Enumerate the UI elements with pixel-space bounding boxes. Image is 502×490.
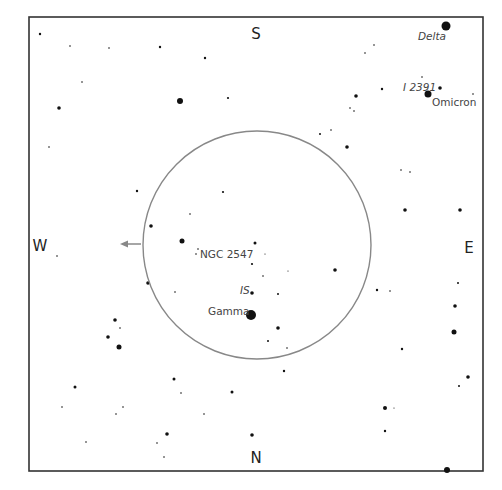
star bbox=[177, 98, 183, 104]
star bbox=[180, 392, 182, 394]
star bbox=[231, 391, 234, 394]
direction-south: S bbox=[251, 25, 261, 43]
star bbox=[174, 291, 176, 293]
star bbox=[349, 107, 351, 109]
star bbox=[106, 335, 110, 339]
star bbox=[85, 441, 87, 443]
star bbox=[264, 253, 265, 254]
star bbox=[56, 255, 58, 257]
star bbox=[354, 94, 358, 98]
star bbox=[383, 406, 387, 410]
star bbox=[48, 146, 50, 148]
star bbox=[61, 406, 63, 408]
object-label: Omicron bbox=[432, 96, 476, 108]
star bbox=[453, 304, 457, 308]
object-label: Delta bbox=[418, 30, 446, 42]
star bbox=[376, 289, 378, 291]
star bbox=[113, 318, 117, 322]
star bbox=[409, 171, 411, 173]
star bbox=[319, 133, 321, 135]
object-label: Gamma bbox=[208, 305, 249, 317]
star bbox=[197, 248, 199, 250]
star bbox=[117, 345, 122, 350]
star bbox=[330, 129, 332, 131]
star bbox=[277, 293, 279, 295]
star bbox=[136, 190, 138, 192]
star bbox=[57, 106, 61, 110]
star bbox=[267, 340, 269, 342]
star bbox=[159, 46, 161, 48]
star bbox=[189, 213, 191, 215]
star bbox=[149, 224, 153, 228]
star bbox=[384, 430, 386, 432]
star bbox=[69, 45, 71, 47]
star bbox=[115, 413, 117, 415]
star bbox=[345, 145, 349, 149]
star bbox=[472, 93, 474, 95]
star bbox=[74, 386, 77, 389]
star bbox=[389, 290, 391, 292]
star bbox=[333, 268, 337, 272]
star bbox=[195, 253, 197, 255]
star bbox=[165, 432, 169, 436]
star bbox=[156, 442, 158, 444]
star bbox=[180, 239, 185, 244]
object-label: NGC 2547 bbox=[200, 248, 253, 260]
star bbox=[421, 76, 423, 78]
star bbox=[254, 242, 257, 245]
star bbox=[39, 33, 41, 35]
star bbox=[283, 370, 285, 372]
star bbox=[457, 282, 459, 284]
star bbox=[251, 263, 253, 265]
star bbox=[393, 407, 394, 408]
star bbox=[400, 169, 402, 171]
direction-west: W bbox=[33, 237, 48, 255]
star bbox=[173, 378, 176, 381]
star bbox=[163, 456, 165, 458]
star bbox=[438, 86, 442, 90]
star bbox=[119, 327, 121, 329]
star bbox=[458, 385, 460, 387]
star bbox=[203, 413, 205, 415]
star bbox=[286, 347, 288, 349]
star bbox=[81, 81, 83, 83]
star bbox=[452, 330, 457, 335]
star-finder-chart: N S E W DeltaI 2391OmicronNGC 2547ISGamm… bbox=[0, 0, 502, 490]
star bbox=[381, 88, 383, 90]
star bbox=[466, 375, 470, 379]
star bbox=[401, 348, 403, 350]
star bbox=[403, 208, 407, 212]
star bbox=[108, 47, 110, 49]
star bbox=[122, 406, 124, 408]
star bbox=[222, 191, 224, 193]
star bbox=[458, 208, 462, 212]
direction-north: N bbox=[250, 449, 261, 467]
star bbox=[287, 270, 288, 271]
star bbox=[250, 433, 254, 437]
object-label: IS bbox=[240, 284, 250, 296]
star bbox=[204, 57, 206, 59]
star bbox=[250, 291, 254, 295]
star bbox=[276, 326, 280, 330]
direction-east: E bbox=[464, 239, 473, 257]
star bbox=[373, 44, 375, 46]
star bbox=[444, 467, 450, 473]
star bbox=[364, 52, 366, 54]
star bbox=[227, 97, 229, 99]
star bbox=[262, 275, 264, 277]
star bbox=[353, 110, 355, 112]
object-label: I 2391 bbox=[403, 81, 436, 93]
